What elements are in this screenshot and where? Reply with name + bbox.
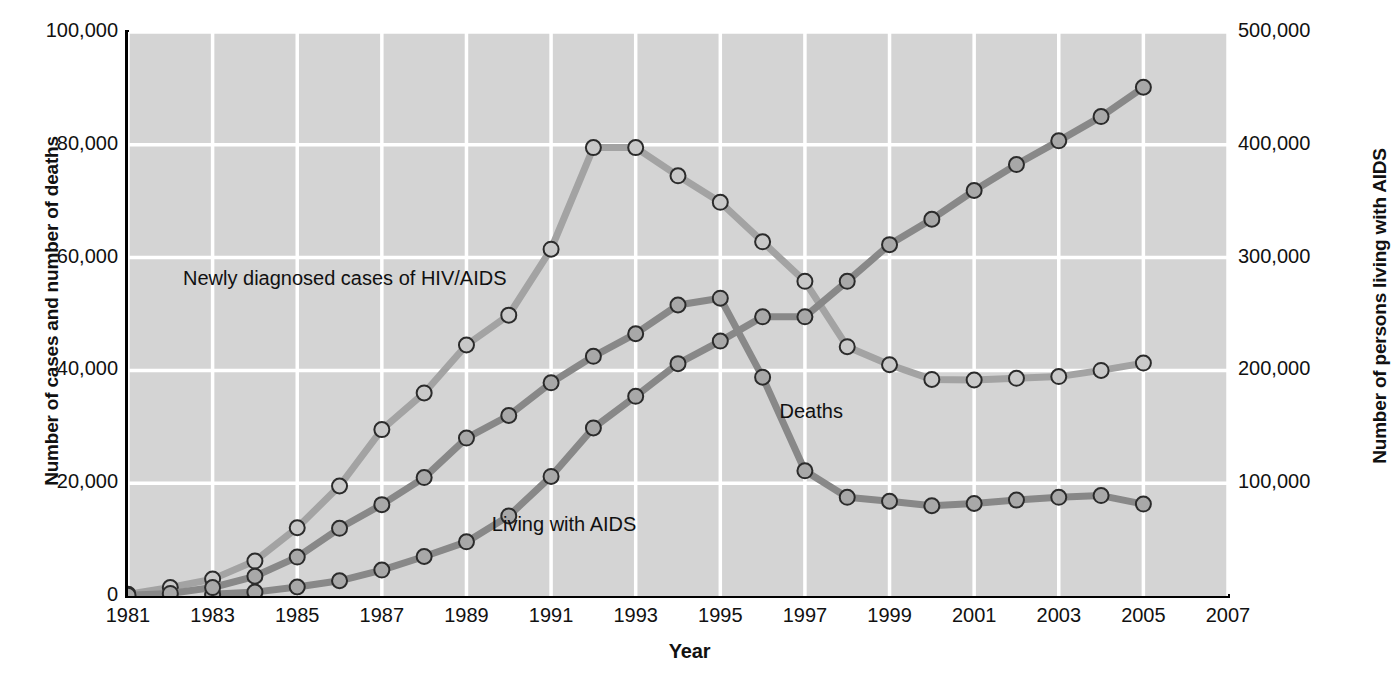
y-axis-left-tick: 20,000: [0, 470, 118, 493]
y-axis-left-tick: 0: [0, 583, 118, 606]
chart-svg: [128, 32, 1228, 596]
y-axis-left-title: Number of cases and number of deaths: [41, 31, 63, 591]
x-axis-tick: 1997: [760, 604, 850, 627]
x-axis-tick: 1991: [506, 604, 596, 627]
y-axis-right-title: Number of persons living with AIDS: [1369, 26, 1391, 586]
x-axis-tick: 2005: [1098, 604, 1188, 627]
y-axis-right-tick: 500,000: [1238, 19, 1358, 42]
y-axis-right-tick: 100,000: [1238, 470, 1358, 493]
x-axis-tick: 2007: [1183, 604, 1273, 627]
x-axis-tick: 1983: [168, 604, 258, 627]
x-axis-tick: 1987: [337, 604, 427, 627]
y-axis-left-tick: 80,000: [0, 132, 118, 155]
y-axis-right-tick: 400,000: [1238, 132, 1358, 155]
x-axis-tick: 2001: [929, 604, 1019, 627]
x-axis-tick: 1995: [675, 604, 765, 627]
x-axis-tick: 1999: [845, 604, 935, 627]
y-axis-right-tick: 300,000: [1238, 245, 1358, 268]
y-axis-right-tick: 200,000: [1238, 357, 1358, 380]
y-axis-left-tick: 40,000: [0, 357, 118, 380]
x-axis-tick: 2003: [1014, 604, 1104, 627]
plot-area: [128, 32, 1228, 596]
series-label-1: Newly diagnosed cases of HIV/AIDS: [183, 267, 507, 290]
x-axis-title: Year: [0, 640, 1379, 663]
x-axis-tick: 1981: [83, 604, 173, 627]
y-axis-left-tick: 60,000: [0, 245, 118, 268]
x-axis-tick: 1993: [591, 604, 681, 627]
x-axis-tick: 1985: [252, 604, 342, 627]
series-label-3: Living with AIDS: [492, 513, 637, 536]
series-label-2: Deaths: [780, 400, 843, 423]
x-axis-tick: 1989: [421, 604, 511, 627]
y-axis-left-tick: 100,000: [0, 19, 118, 42]
